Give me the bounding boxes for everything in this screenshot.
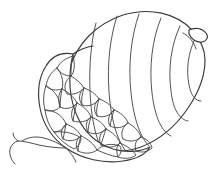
acorn-artboard (0, 0, 219, 181)
acorn-drawing (0, 0, 219, 181)
